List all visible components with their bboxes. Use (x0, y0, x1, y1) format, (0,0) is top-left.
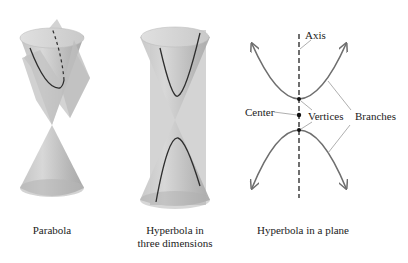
center-leader (274, 112, 297, 115)
caption-line: Parabola (22, 224, 82, 237)
hyperbola-3d-figure (140, 27, 210, 209)
upper-vertex-point (297, 97, 301, 101)
caption-line: Hyperbola in (130, 224, 220, 237)
center-point (297, 113, 301, 117)
axis-leader (300, 40, 311, 49)
lower-cone-base (140, 191, 210, 209)
branch-lower-leader (328, 125, 350, 153)
vertex-lower-leader (301, 122, 312, 129)
caption-hyperbola-plane: Hyperbola in a plane (250, 224, 356, 237)
caption-parabola: Parabola (22, 224, 82, 237)
lower-cone-base (20, 179, 84, 197)
branch-upper-leader (328, 81, 351, 110)
caption-hyperbola-3d: Hyperbola in three dimensions (130, 224, 220, 250)
vertices-label: Vertices (308, 110, 343, 122)
branches-label: Branches (355, 110, 396, 122)
axis-label: Axis (305, 29, 326, 41)
vertex-upper-leader (301, 101, 312, 110)
caption-line: three dimensions (130, 237, 220, 250)
lower-vertex-point (297, 128, 301, 132)
parabola-figure (20, 19, 90, 197)
conic-sections-diagram: Axis Center Vertices Branches Parabola H… (0, 0, 408, 263)
center-label: Center (245, 106, 274, 118)
caption-line: Hyperbola in a plane (250, 224, 356, 237)
